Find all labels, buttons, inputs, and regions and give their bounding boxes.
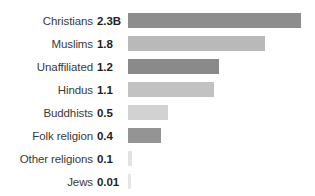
chart-row: Unaffiliated 1.2 [0,55,315,78]
bar-track [128,151,315,166]
value-label: 1.8 [97,38,128,50]
bar [128,13,301,28]
category-label: Folk religion [0,130,93,142]
bar [128,151,132,166]
bar-track [128,105,315,120]
category-label: Christians [0,15,93,27]
bar-track [128,174,315,189]
bar-track [128,59,315,74]
category-label: Muslims [0,38,93,50]
category-label: Hindus [0,84,93,96]
category-label: Buddhists [0,107,93,119]
value-label: 0.1 [97,153,128,165]
category-label: Unaffiliated [0,61,93,73]
bar-track [128,36,315,51]
value-label: 0.4 [97,130,128,142]
chart-row: Folk religion 0.4 [0,124,315,147]
value-label: 0.01 [97,176,128,188]
chart-row: Other religions 0.1 [0,147,315,170]
chart-row: Christians 2.3B [0,9,315,32]
bar [128,105,168,120]
bar [128,59,219,74]
category-label: Jews [0,176,93,188]
value-label: 2.3B [97,15,128,27]
chart-row: Jews 0.01 [0,170,315,193]
category-label: Other religions [0,153,93,165]
value-label: 1.2 [97,61,128,73]
chart-row: Buddhists 0.5 [0,101,315,124]
bar-track [128,13,315,28]
value-label: 1.1 [97,84,128,96]
chart-row: Hindus 1.1 [0,78,315,101]
bar-track [128,128,315,143]
chart-row: Muslims 1.8 [0,32,315,55]
bar [128,36,265,51]
bar [128,82,214,97]
bar [128,128,161,143]
bar [128,174,131,189]
bar-track [128,82,315,97]
value-label: 0.5 [97,107,128,119]
bar-chart: Christians 2.3B Muslims 1.8 Unaffiliated… [0,0,315,196]
